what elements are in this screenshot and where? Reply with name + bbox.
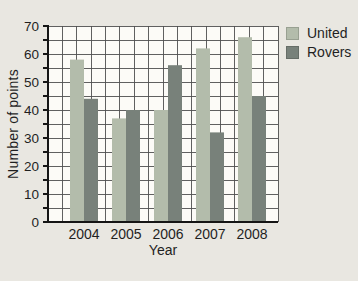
y-tick-label-30: 30 [24, 131, 39, 146]
bar-rovers-2008 [252, 96, 266, 222]
y-tick-label-20: 20 [24, 159, 39, 174]
y-axis-title: Number of points [5, 69, 21, 179]
y-tick-label-60: 60 [24, 47, 39, 62]
legend-item-rovers: Rovers [286, 45, 351, 59]
bar-rovers-2006 [168, 65, 182, 222]
x-tick-label-2005: 2005 [110, 226, 141, 242]
y-tick-label-0: 0 [31, 215, 39, 230]
legend-label-rovers: Rovers [307, 45, 351, 59]
united-swatch-icon [286, 27, 299, 40]
x-tick-label-2006: 2006 [152, 226, 183, 242]
x-axis-title: Year [149, 242, 177, 258]
bar-rovers-2004 [84, 99, 98, 222]
y-tick-label-50: 50 [24, 75, 39, 90]
bar-rovers-2005 [126, 110, 140, 222]
y-tick-label-40: 40 [24, 103, 39, 118]
y-tick-label-70: 70 [24, 19, 39, 34]
legend-label-united: United [307, 26, 347, 40]
bar-united-2007 [196, 48, 210, 222]
x-tick-label-2008: 2008 [236, 226, 267, 242]
bar-rovers-2007 [210, 132, 224, 222]
legend: United Rovers [286, 26, 351, 64]
rovers-swatch-icon [286, 46, 299, 59]
y-tick-label-10: 10 [24, 187, 39, 202]
bar-united-2005 [112, 118, 126, 222]
x-tick-label-2007: 2007 [194, 226, 225, 242]
x-tick-label-2004: 2004 [68, 226, 99, 242]
bar-united-2004 [70, 60, 84, 222]
bar-united-2006 [154, 110, 168, 222]
bar-united-2008 [238, 37, 252, 222]
legend-item-united: United [286, 26, 351, 40]
scanned-bar-chart-page: 20042005200620072008010203040506070 Numb… [0, 0, 358, 281]
